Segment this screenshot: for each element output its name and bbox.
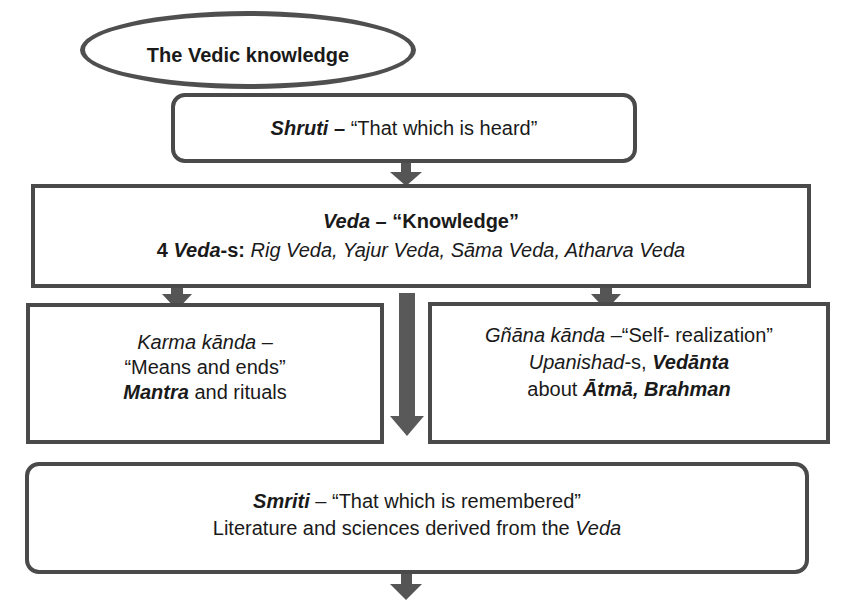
smriti-line2: Literature and sciences derived from the… [213,517,621,540]
shruti-term: Shruti [271,117,329,139]
karma-mantra: Mantra [123,381,189,403]
root-node-ellipse: The Vedic knowledge [80,11,416,89]
veda-term: Veda [323,210,370,232]
karma-detail-rest: and rituals [189,381,287,403]
gnana-line2: Upanishad-s, Vedānta [529,351,729,374]
smriti-veda: Veda [575,517,621,539]
veda-count: 4 [157,239,174,261]
veda-node: Veda – “Knowledge” 4 Veda-s: Rig Veda, Y… [31,184,811,288]
veda-count-suffix: -s: [221,239,251,261]
gnana-atma-brahman: Ātmā, Brahman [583,378,731,400]
gnana-heading: Gñāna kānda –“Self- realization” [485,324,773,347]
smriti-heading: Smriti – “That which is remembered” [253,490,581,513]
karma-term: Karma kānda – [137,331,273,354]
gnana-upanishad: Upanishad [529,351,625,373]
gnana-meaning: “Self- realization” [622,324,773,346]
smriti-sep: – [310,490,332,512]
karma-kanda-node: Karma kānda – “Means and ends” Mantra an… [26,303,384,444]
smriti-line2-text: Literature and sciences derived from the [213,517,575,539]
karma-detail: Mantra and rituals [123,381,286,404]
smriti-meaning: “That which is remembered” [332,490,581,512]
veda-sep: – [370,210,392,232]
gnana-kanda-node: Gñāna kānda –“Self- realization” Upanish… [428,302,830,444]
karma-meaning: “Means and ends” [124,356,285,379]
shruti-meaning: “That which is heard” [351,117,538,139]
veda-count-term: Veda [173,239,220,261]
gnana-vedanta: Vedānta [652,351,729,373]
veda-heading: Veda – “Knowledge” [323,210,519,233]
veda-list-line: 4 Veda-s: Rig Veda, Yajur Veda, Sāma Ved… [157,239,685,262]
smriti-node: Smriti – “That which is remembered” Lite… [25,462,809,574]
gnana-sep: – [605,324,622,346]
gnana-about: about [527,378,583,400]
root-title: The Vedic knowledge [147,44,349,67]
gnana-line3: about Ātmā, Brahman [527,378,730,401]
shruti-sep: – [328,117,350,139]
smriti-term: Smriti [253,490,310,512]
veda-list: Rig Veda, Yajur Veda, Sāma Veda, Atharva… [251,239,686,261]
gnana-term: Gñāna kānda [485,324,605,346]
shruti-node: Shruti – “That which is heard” [171,93,637,163]
gnana-line2-suffix: -s, [624,351,652,373]
veda-meaning: “Knowledge” [392,210,519,232]
shruti-heading: Shruti – “That which is heard” [271,117,538,140]
